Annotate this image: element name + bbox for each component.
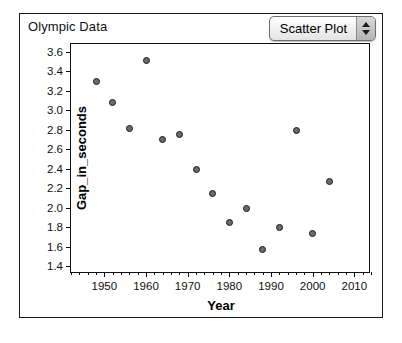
stepper-arrows[interactable] — [356, 17, 375, 40]
x-tick-minor — [338, 272, 339, 275]
scatter-point — [209, 190, 216, 197]
x-tick-minor — [129, 272, 130, 275]
x-tick-minor — [371, 272, 372, 275]
x-tick-minor — [121, 272, 122, 275]
y-tick-label: 3.2 — [47, 85, 63, 97]
plot-type-dropdown[interactable]: Scatter Plot — [269, 16, 376, 41]
y-tick-label: 1.4 — [47, 260, 63, 272]
x-tick-label: 1970 — [175, 280, 201, 292]
x-tick-minor — [363, 272, 364, 275]
x-tick-minor — [296, 272, 297, 275]
x-tick-major — [188, 272, 189, 277]
scatter-point — [193, 166, 200, 173]
y-tick-label: 2.2 — [47, 182, 63, 194]
scatter-point — [259, 246, 266, 253]
x-tick-minor — [321, 272, 322, 275]
y-tick-label: 3.4 — [47, 65, 63, 77]
x-tick-minor — [196, 272, 197, 275]
scatter-point — [326, 178, 333, 185]
scatter-point — [109, 99, 116, 106]
x-tick-label: 1950 — [92, 280, 118, 292]
x-tick-minor — [179, 272, 180, 275]
scatter-point — [143, 57, 150, 64]
scatter-plot-window: Olympic Data Scatter Plot 1.41.61.82.02.… — [0, 0, 402, 343]
y-axis-title: Gap_in_seconds — [74, 106, 89, 210]
x-tick-minor — [246, 272, 247, 275]
x-tick-minor — [88, 272, 89, 275]
y-tick-label: 3.6 — [47, 46, 63, 58]
scatter-point — [126, 125, 133, 132]
y-tick-label: 1.8 — [47, 221, 63, 233]
x-tick-minor — [171, 272, 172, 275]
x-tick-major — [146, 272, 147, 277]
y-tick-label: 2.8 — [47, 124, 63, 136]
x-tick-major — [271, 272, 272, 277]
x-tick-minor — [346, 272, 347, 275]
x-tick-minor — [213, 272, 214, 275]
scatter-point — [276, 224, 283, 231]
x-tick-minor — [163, 272, 164, 275]
x-tick-label: 1960 — [133, 280, 159, 292]
y-tick-label: 2.6 — [47, 143, 63, 155]
x-tick-minor — [96, 272, 97, 275]
x-tick-major — [229, 272, 230, 277]
x-axis-title: Year — [207, 298, 234, 313]
x-tick-major — [313, 272, 314, 277]
plot-area: 1.41.61.82.02.22.42.62.83.03.23.43.6 195… — [70, 43, 383, 318]
x-tick-minor — [304, 272, 305, 275]
x-tick-major — [104, 272, 105, 277]
scatter-point — [93, 78, 100, 85]
x-tick-minor — [71, 272, 72, 275]
x-tick-minor — [113, 272, 114, 275]
data-points — [71, 44, 369, 272]
x-tick-major — [354, 272, 355, 277]
triangle-down-icon[interactable] — [362, 30, 370, 35]
chart-panel: Olympic Data Scatter Plot 1.41.61.82.02.… — [19, 13, 383, 318]
x-tick-label: 1980 — [217, 280, 243, 292]
scatter-point — [243, 205, 250, 212]
scatter-point — [226, 219, 233, 226]
x-tick-minor — [254, 272, 255, 275]
x-tick-label: 2000 — [300, 280, 326, 292]
x-tick-label: 2010 — [342, 280, 368, 292]
x-tick-minor — [263, 272, 264, 275]
y-tick-label: 2.4 — [47, 163, 63, 175]
y-tick-label: 2.0 — [47, 202, 63, 214]
x-tick-label: 1990 — [258, 280, 284, 292]
scatter-point — [309, 230, 316, 237]
axes-box: 1.41.61.82.02.22.42.62.83.03.23.43.6 195… — [70, 43, 370, 273]
chart-header: Olympic Data Scatter Plot — [20, 14, 382, 42]
plot-type-value: Scatter Plot — [270, 17, 356, 40]
x-tick-minor — [154, 272, 155, 275]
scatter-point — [159, 136, 166, 143]
y-tick-label: 3.0 — [47, 104, 63, 116]
chart-title: Olympic Data — [28, 19, 107, 34]
x-tick-minor — [79, 272, 80, 275]
x-tick-minor — [204, 272, 205, 275]
scatter-point — [176, 131, 183, 138]
x-tick-minor — [221, 272, 222, 275]
y-tick-label: 1.6 — [47, 241, 63, 253]
x-tick-minor — [238, 272, 239, 275]
x-tick-minor — [138, 272, 139, 275]
triangle-up-icon[interactable] — [362, 22, 370, 27]
scatter-point — [293, 127, 300, 134]
x-tick-minor — [288, 272, 289, 275]
x-tick-minor — [279, 272, 280, 275]
x-tick-minor — [329, 272, 330, 275]
